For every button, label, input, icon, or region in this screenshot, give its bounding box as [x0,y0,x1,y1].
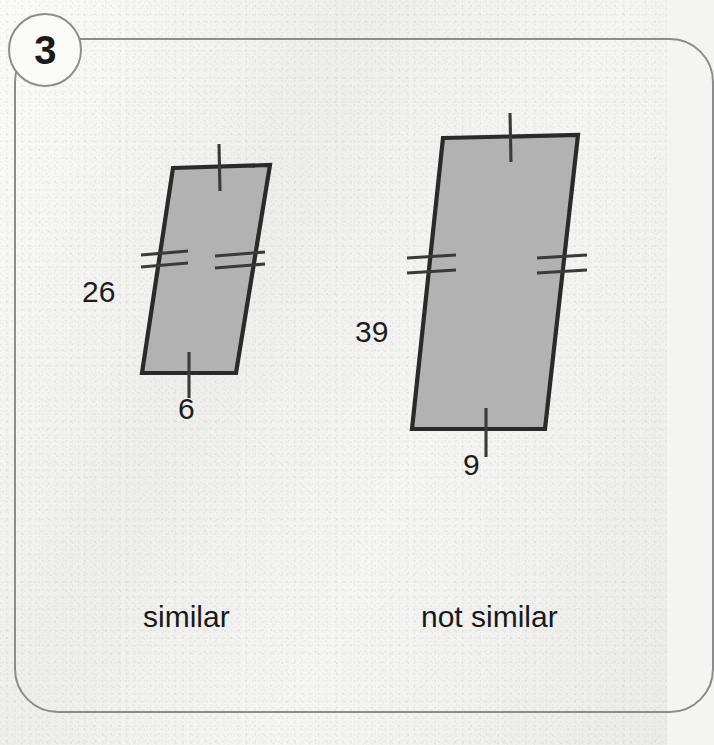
left-figure-side-label: 26 [82,275,115,309]
left-top-tick-icon [219,144,220,191]
right-top-tick-icon [510,113,511,162]
left-figure-caption: similar [143,600,230,634]
left-figure-base-label: 6 [178,392,195,426]
right-figure-caption: not similar [421,600,558,634]
right-figure-base-label: 9 [463,448,480,482]
left-quadrilateral-group [141,144,270,398]
right-figure-side-label: 39 [355,315,388,349]
left-quadrilateral-fill [142,165,270,373]
right-quadrilateral-group [407,113,587,457]
